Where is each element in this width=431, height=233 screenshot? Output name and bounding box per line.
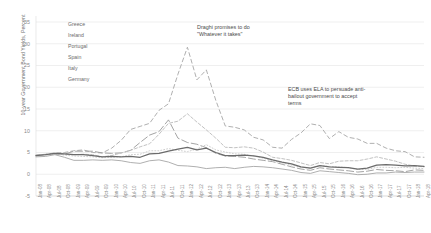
x-axis-tick: Apr-16 bbox=[350, 184, 355, 198]
annotation-draghi: Draghi promises to do "Whatever it takes… bbox=[197, 24, 273, 38]
x-axis-tick: Jan-17 bbox=[378, 184, 383, 198]
y-axis-tick: 10 bbox=[12, 128, 30, 134]
x-axis-tick: Oct-11 bbox=[180, 185, 185, 198]
x-axis-tick: Jul-08 bbox=[57, 185, 62, 198]
x-axis-tick: Jul-12 bbox=[208, 185, 213, 198]
x-axis-tick: Jan-09 bbox=[76, 184, 81, 198]
annotation-ela: ECB uses ELA to persuade anti-bailout go… bbox=[288, 86, 368, 107]
series-line-ireland bbox=[36, 120, 424, 172]
legend-item-greece[interactable]: Greece bbox=[42, 18, 89, 29]
legend-item-label: Greece bbox=[68, 21, 85, 27]
x-axis-tick: Apr-13 bbox=[237, 184, 242, 198]
y-axis-tick: 15 bbox=[12, 106, 30, 112]
x-axis-tick: Oct-15 bbox=[331, 184, 336, 198]
x-axis-tick: Apr-11 bbox=[161, 185, 166, 198]
x-axis-tick: Jan-15 bbox=[303, 184, 308, 198]
y-axis-tick: 20 bbox=[12, 84, 30, 90]
x-axis-tick: Apr-10 bbox=[123, 184, 128, 198]
x-axis-tick: Jul-17 bbox=[397, 185, 402, 198]
x-axis-tick: Jul-14 bbox=[284, 185, 289, 198]
x-axis-tick: Oct-17 bbox=[407, 184, 412, 198]
x-axis-tick: Jul-10 bbox=[132, 185, 137, 198]
y-axis-tick: 5 bbox=[12, 149, 30, 155]
x-axis-tick: Oct-12 bbox=[218, 184, 223, 198]
x-axis-tick: Apr-08 bbox=[47, 184, 52, 198]
x-axis-tick: Jan-18 bbox=[416, 184, 421, 198]
x-axis-tick: Jan-08 bbox=[38, 184, 43, 198]
x-axis-tick: Jan-16 bbox=[341, 184, 346, 198]
x-axis-tick: Oct-13 bbox=[255, 184, 260, 198]
x-axis-tick: Jul-09 bbox=[95, 185, 100, 198]
legend-item-label: Germany bbox=[68, 76, 89, 82]
x-axis-tick: Oct-16 bbox=[369, 184, 374, 198]
x-axis-tick: Jan-13 bbox=[227, 184, 232, 198]
series-line-spain bbox=[36, 145, 424, 170]
y-axis-tick: 0 bbox=[12, 171, 30, 177]
x-axis-tick: Oct-10 bbox=[142, 184, 147, 198]
x-axis-tick: Jan-10 bbox=[114, 184, 119, 198]
y-axis-tick: 35 bbox=[12, 19, 30, 25]
legend-item-germany[interactable]: Germany bbox=[42, 73, 89, 84]
y-axis-tick: 30 bbox=[12, 41, 30, 47]
y-axis-tick: -5 bbox=[12, 193, 30, 199]
legend-item-label: Ireland bbox=[68, 32, 84, 38]
series-line-germany bbox=[36, 155, 424, 175]
x-axis-tick: Jan-14 bbox=[265, 184, 270, 198]
legend-item-italy[interactable]: Italy bbox=[42, 62, 89, 73]
x-axis-tick: Jul-15 bbox=[322, 185, 327, 198]
x-axis-tick: Apr-14 bbox=[274, 184, 279, 198]
chart-legend: GreeceIrelandPortugalSpainItalyGermany bbox=[42, 18, 89, 84]
x-axis-tick: Jan-12 bbox=[189, 184, 194, 198]
x-axis-tick: Apr-18 bbox=[426, 184, 431, 198]
x-axis-tick: Jul-16 bbox=[360, 185, 365, 198]
series-line-italy bbox=[36, 147, 424, 169]
chart-container: 10-year Government Bond Yields, Percent … bbox=[0, 0, 431, 233]
legend-item-portugal[interactable]: Portugal bbox=[42, 40, 89, 51]
x-axis-tick: Jan-11 bbox=[151, 184, 156, 198]
x-axis-tick: Apr-15 bbox=[312, 184, 317, 198]
x-axis-tick: Apr-09 bbox=[85, 184, 90, 198]
x-axis-tick: Oct-14 bbox=[293, 184, 298, 198]
legend-item-ireland[interactable]: Ireland bbox=[42, 29, 89, 40]
x-axis-tick: Oct-09 bbox=[104, 184, 109, 198]
x-axis-tick: Oct-08 bbox=[66, 184, 71, 198]
series-line-portugal bbox=[36, 114, 424, 167]
x-axis-tick: Jul-13 bbox=[246, 185, 251, 198]
legend-item-label: Italy bbox=[68, 65, 78, 71]
legend-item-label: Portugal bbox=[68, 43, 87, 49]
x-axis-tick: Apr-17 bbox=[388, 184, 393, 198]
legend-item-spain[interactable]: Spain bbox=[42, 51, 89, 62]
legend-item-label: Spain bbox=[68, 54, 81, 60]
y-axis-tick: 25 bbox=[12, 62, 30, 68]
x-axis-tick: Jul-11 bbox=[170, 186, 175, 198]
x-axis-tick: Apr-12 bbox=[199, 184, 204, 198]
